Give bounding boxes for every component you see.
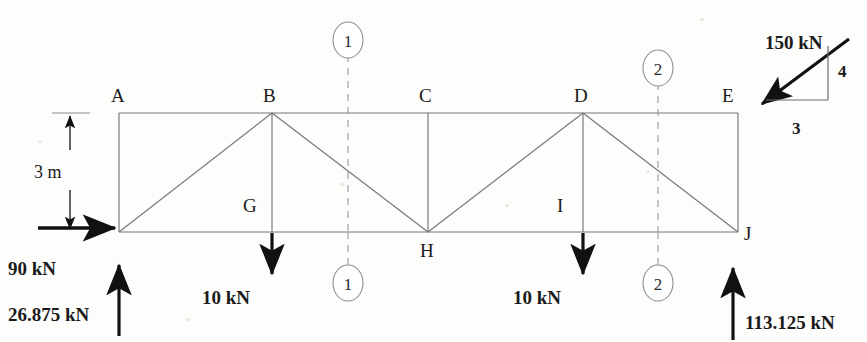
section-1-bottom-label: 1 (333, 275, 363, 295)
member-diagonal-B-H (272, 113, 428, 232)
scan-speck (646, 170, 650, 173)
node-label-J: J (744, 224, 751, 243)
node-label-D: D (574, 86, 588, 105)
truss-members (119, 113, 738, 232)
member-diagonal-D-J (583, 113, 738, 232)
slope-triangle-horizontal-label: 3 (792, 120, 801, 137)
node-label-G: G (243, 196, 257, 215)
node-label-C: C (419, 86, 432, 105)
section-1-top-label: 1 (333, 32, 363, 52)
section-2-bottom-label: 2 (643, 275, 673, 295)
section-cut-2 (643, 50, 673, 301)
truss-drawing (0, 0, 867, 342)
load-label-10kn-at-G: 10 kN (202, 288, 250, 307)
node-label-B: B (263, 86, 276, 105)
scan-speck (186, 318, 191, 321)
scan-speck (340, 183, 345, 186)
scan-speck (505, 204, 509, 207)
slope-triangle-vertical-label: 4 (838, 63, 847, 80)
scan-speck (38, 140, 42, 143)
scan-speck (700, 18, 704, 21)
section-2-top-label: 2 (643, 60, 673, 80)
truss-diagram-page: A B C D E G H I J 3 m 1 1 2 2 90 kN 26.8… (0, 0, 867, 342)
node-label-E: E (722, 86, 734, 105)
load-label-90kn: 90 kN (8, 259, 56, 278)
node-label-H: H (420, 241, 434, 260)
load-label-10kn-at-I: 10 kN (513, 288, 561, 307)
node-label-A: A (111, 86, 125, 105)
node-label-I: I (557, 196, 563, 215)
load-label-113125kn: 113.125 kN (745, 313, 835, 332)
height-dimension-label: 3 m (34, 163, 62, 181)
load-label-150kn: 150 kN (765, 33, 823, 52)
load-label-26875kn: 26.875 kN (8, 305, 89, 324)
section-cut-1 (333, 22, 363, 301)
